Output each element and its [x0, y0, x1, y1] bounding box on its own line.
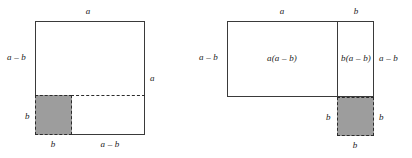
left-shaded-corner-square	[35, 95, 72, 135]
right-label-right: a – b	[379, 53, 398, 64]
right-label-shaded-bottom: b	[353, 140, 358, 151]
right-vertical-divider	[337, 21, 338, 97]
right-shaded-square	[337, 97, 374, 136]
figure-canvas: a a – b a b b a – b a b a – b a(a – b) b…	[0, 0, 412, 158]
left-label-left-lower: b	[25, 111, 30, 122]
left-label-bottom-shaded: b	[51, 139, 56, 150]
right-label-left: a – b	[199, 52, 218, 63]
right-label-shaded-right: b	[379, 112, 384, 123]
right-label-area-left: a(a – b)	[267, 53, 297, 64]
left-label-bottom-right: a – b	[101, 139, 120, 150]
left-label-top: a	[86, 6, 91, 17]
left-label-right: a	[150, 73, 155, 84]
right-label-top-right: b	[354, 6, 359, 17]
left-label-left-upper: a – b	[7, 52, 26, 63]
right-label-area-right: b(a – b)	[341, 53, 371, 64]
right-label-top-left: a	[280, 6, 285, 17]
left-dashed-horizontal-cut	[71, 95, 145, 96]
right-label-shaded-left: b	[326, 112, 331, 123]
